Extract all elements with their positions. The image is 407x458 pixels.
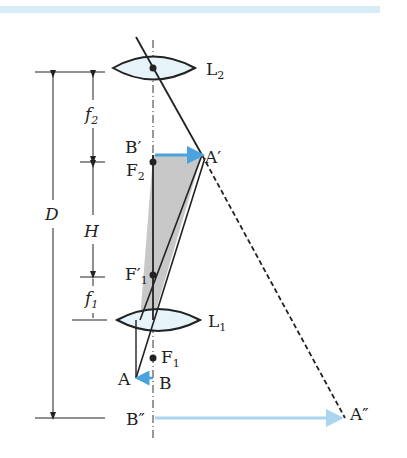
ray-through-L2-center xyxy=(136,37,202,155)
label-A-double-prime: A″ xyxy=(349,404,369,424)
ray-dashed-virtual xyxy=(202,155,345,418)
point-F1 xyxy=(150,355,157,362)
label-L2: L2 xyxy=(206,59,224,82)
dimension-label-f2: f2 xyxy=(83,104,98,127)
label-B-double-prime: B″ xyxy=(126,409,145,429)
label-F1: F1 xyxy=(161,347,180,370)
label-F2: F2 xyxy=(126,160,145,183)
point-F2 xyxy=(150,159,157,166)
label-A: A xyxy=(117,369,131,389)
dimension-label-D: D xyxy=(44,204,59,224)
label-B-prime: B′ xyxy=(125,137,141,157)
point-L2-center xyxy=(150,65,157,72)
label-A-prime: A′ xyxy=(204,147,221,167)
lens-L1 xyxy=(117,309,200,331)
dimension-label-f1: f1 xyxy=(83,288,98,311)
optics-diagram: L2 L1 B′ A′ F2 F′1 F1 A B B″ A″ D f2 H f… xyxy=(0,0,407,458)
label-L1: L1 xyxy=(208,311,226,334)
dimension-label-H: H xyxy=(83,221,100,241)
point-F1-prime xyxy=(150,272,157,279)
label-B: B xyxy=(159,373,172,393)
